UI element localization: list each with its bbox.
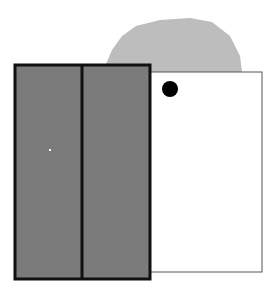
white-speck: [49, 149, 51, 151]
black-dot: [162, 81, 178, 97]
shapes-canvas: [0, 0, 272, 298]
white-outlined-rectangle: [150, 72, 262, 272]
